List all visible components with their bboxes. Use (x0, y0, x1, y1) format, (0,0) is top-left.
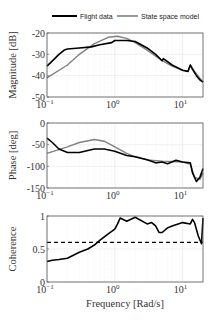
phase-plot: 0-50-100-150Phase [deg]10−1100101 (7, 118, 203, 202)
x-tick-label: 10−1 (36, 98, 54, 110)
y-axis-label: Phase [deg] (7, 131, 18, 180)
y-tick-label: -100 (27, 161, 45, 172)
y-tick-label: 1 (40, 211, 45, 222)
y-tick-label: -30 (32, 49, 45, 60)
y-tick-label: -40 (32, 70, 45, 81)
y-tick-label: -20 (32, 28, 45, 39)
x-tick-label: 10−1 (36, 283, 54, 295)
coherence-plot: 00.51Coherence10−1100101 (7, 211, 203, 296)
magnitude-plot: -20-30-40-50Magnitude [dB]10−1100101 (7, 28, 203, 111)
y-tick-label: 0 (40, 118, 45, 129)
y-axis-label: Coherence (7, 226, 18, 271)
bode-coherence-figure: Flight data State space model -20-30-40-… (0, 0, 216, 329)
y-axis-label: Magnitude [dB] (7, 31, 18, 98)
x-tick-label: 100 (106, 189, 120, 201)
x-axis-label: Frequency [Rad/s] (86, 298, 164, 309)
x-tick-label: 10−1 (36, 189, 54, 201)
x-tick-label: 100 (106, 98, 120, 110)
legend: Flight data State space model (52, 13, 199, 21)
y-tick-label: -50 (32, 139, 45, 150)
x-tick-label: 101 (174, 189, 188, 201)
legend-label-flight-data: Flight data (80, 13, 113, 21)
x-tick-label: 101 (174, 98, 188, 110)
legend-label-state-space-model: State space model (141, 13, 199, 21)
y-tick-label: 0.5 (33, 244, 46, 255)
x-tick-label: 101 (174, 283, 188, 295)
x-tick-label: 100 (106, 283, 120, 295)
